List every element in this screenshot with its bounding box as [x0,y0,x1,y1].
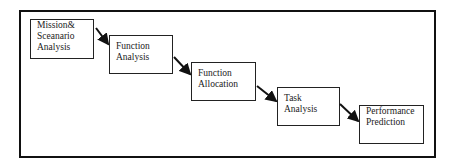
arrow-icon [96,28,108,44]
flow-arrows [0,0,453,166]
arrow-icon [174,57,190,74]
arrow-icon [257,86,276,101]
arrow-icon [340,104,358,121]
